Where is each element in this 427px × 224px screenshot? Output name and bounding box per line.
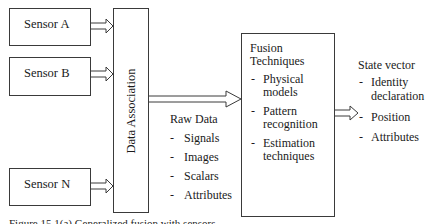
- raw-data-item: -Attributes: [170, 189, 232, 202]
- raw-data-title: Raw Data: [170, 113, 218, 126]
- fusion-title-line2: Techniques: [250, 55, 304, 68]
- raw-data-item: -Images: [170, 151, 219, 164]
- raw-data-item: -Scalars: [170, 170, 219, 183]
- state-vector-bullet: -: [359, 131, 363, 144]
- sensor-a-label: Sensor A: [24, 17, 70, 32]
- fusion-item-estimation-cont: techniques: [263, 150, 314, 163]
- state-vector-item-identity: Identity: [371, 76, 408, 89]
- fusion-item-bullet: -: [251, 137, 255, 150]
- sensor-b-box: Sensor B: [9, 57, 91, 96]
- arrow-state-vector: [335, 106, 358, 120]
- state-vector-item-position: Position: [371, 111, 410, 124]
- fusion-item-pattern-cont: recognition: [263, 118, 318, 131]
- sensor-a-box: Sensor A: [9, 8, 91, 46]
- sensor-n-box: Sensor N: [9, 168, 91, 206]
- sensor-b-label: Sensor B: [24, 66, 70, 81]
- fusion-item-bullet: -: [251, 73, 255, 86]
- state-vector-bullet: -: [359, 111, 363, 124]
- data-association-label: Data Association: [124, 68, 139, 153]
- state-vector-item-identity-cont: declaration: [371, 90, 424, 103]
- data-association-box: Data Association: [113, 8, 149, 213]
- state-vector-title: State vector: [358, 59, 415, 72]
- fusion-techniques-box: Fusion Techniques - Physical models - Pa…: [241, 33, 335, 217]
- arrow-raw-data: [148, 91, 241, 107]
- fusion-item-physical-cont: models: [263, 86, 298, 99]
- state-vector-item-attributes: Attributes: [371, 131, 419, 144]
- arrow-sensor-b: [90, 67, 113, 81]
- raw-data-item: -Signals: [170, 132, 219, 145]
- sensor-n-label: Sensor N: [24, 177, 70, 192]
- state-vector-bullet: -: [359, 76, 363, 89]
- arrow-sensor-a: [90, 19, 113, 33]
- figure-caption: Figure 15.1(a) Generalized fusion with s…: [9, 217, 216, 224]
- arrow-sensor-n: [90, 179, 113, 193]
- fusion-item-bullet: -: [251, 105, 255, 118]
